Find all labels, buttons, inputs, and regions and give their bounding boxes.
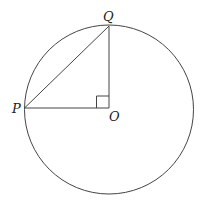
label-o: O — [109, 109, 120, 124]
label-p: P — [11, 101, 21, 116]
circle-diagram: P Q O — [0, 0, 202, 206]
right-angle-marker — [97, 96, 110, 108]
label-q: Q — [103, 9, 114, 24]
